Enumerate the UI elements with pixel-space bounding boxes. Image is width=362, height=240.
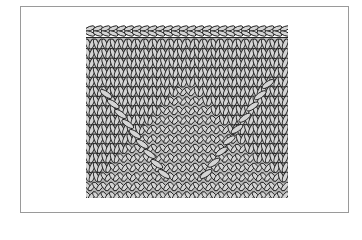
knit-stitches-graphic [86,24,288,198]
knitting-swatch-illustration [86,24,288,198]
